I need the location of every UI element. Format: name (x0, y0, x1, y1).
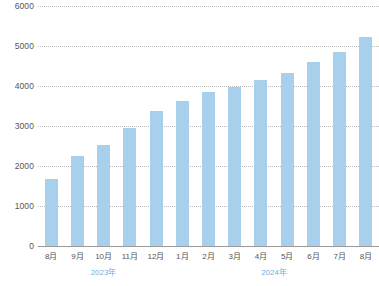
bar[interactable] (307, 62, 320, 246)
bar-slot (38, 6, 64, 246)
x-axis-year-labels: 2023年2024年 (38, 266, 379, 280)
bar[interactable] (45, 179, 58, 246)
bar[interactable] (202, 92, 215, 246)
year-label: 2023年 (91, 266, 117, 280)
bar-slot (195, 6, 221, 246)
bar[interactable] (97, 145, 110, 246)
bar-slot (169, 6, 195, 246)
bar[interactable] (228, 87, 241, 246)
bar-slot (300, 6, 326, 246)
x-tick-label: 10月 (90, 250, 116, 264)
x-tick-label: 11月 (117, 250, 143, 264)
gridline-0 (38, 246, 379, 247)
bar-slot (274, 6, 300, 246)
bar-slot (353, 6, 379, 246)
bar-slot (64, 6, 90, 246)
x-tick-label: 8月 (38, 250, 64, 264)
bar[interactable] (359, 37, 372, 246)
bar-slot (248, 6, 274, 246)
bar-slot (143, 6, 169, 246)
y-tick-label: 4000 (15, 81, 34, 91)
x-tick-label: 2月 (195, 250, 221, 264)
x-tick-label: 1月 (169, 250, 195, 264)
bar-slot (117, 6, 143, 246)
bar[interactable] (333, 52, 346, 246)
bar-slot (327, 6, 353, 246)
bar[interactable] (176, 101, 189, 246)
bar[interactable] (123, 128, 136, 246)
y-tick-label: 6000 (15, 1, 34, 11)
bar[interactable] (281, 73, 294, 246)
bar-series (38, 6, 379, 246)
bar[interactable] (254, 80, 267, 246)
y-tick-label: 5000 (15, 41, 34, 51)
y-tick-label: 1000 (15, 201, 34, 211)
x-tick-label: 5月 (274, 250, 300, 264)
bar-slot (90, 6, 116, 246)
x-tick-label: 8月 (353, 250, 379, 264)
x-tick-label: 4月 (248, 250, 274, 264)
bar-chart: 6000500040003000200010000 8月9月10月11月12月1… (0, 0, 379, 286)
bar[interactable] (150, 111, 163, 246)
plot-area (38, 6, 379, 246)
year-label: 2024年 (261, 266, 287, 280)
x-tick-label: 12月 (143, 250, 169, 264)
y-tick-label: 2000 (15, 161, 34, 171)
x-tick-label: 9月 (64, 250, 90, 264)
x-tick-label: 6月 (300, 250, 326, 264)
x-axis-labels: 8月9月10月11月12月1月2月3月4月5月6月7月8月 (38, 250, 379, 264)
bar[interactable] (71, 156, 84, 246)
bar-slot (222, 6, 248, 246)
x-tick-label: 3月 (222, 250, 248, 264)
y-tick-label: 3000 (15, 121, 34, 131)
y-tick-label: 0 (29, 241, 34, 251)
x-tick-label: 7月 (327, 250, 353, 264)
